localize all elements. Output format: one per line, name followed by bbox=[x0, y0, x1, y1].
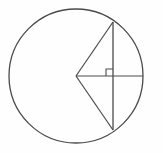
radius-line-cb bbox=[76, 76, 113, 130]
right-angle-marker-icon bbox=[106, 69, 113, 76]
geometry-canvas bbox=[0, 0, 163, 153]
radius-line-ca bbox=[76, 22, 113, 76]
geometry-figure bbox=[0, 0, 163, 153]
